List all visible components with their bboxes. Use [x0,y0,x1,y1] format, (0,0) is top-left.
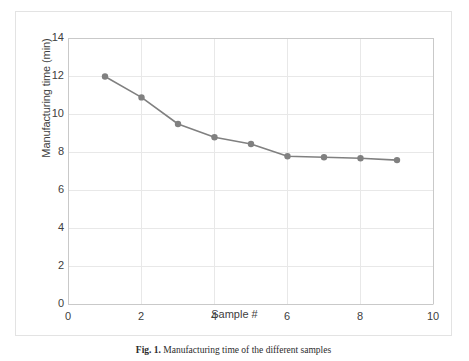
figure-caption-label: Fig. 1. [136,345,161,355]
data-point [248,141,254,147]
data-point [284,153,290,159]
data-point [138,94,144,100]
data-point [357,155,363,161]
horizontal-gridlines [68,39,433,267]
data-series-line [105,77,397,161]
data-point [321,154,327,160]
data-point [394,157,400,163]
vertical-gridlines [142,38,361,304]
line-chart-svg [16,12,453,337]
chart-plot-area: Manufacturing time (min) 14 12 10 8 6 4 … [16,12,451,335]
data-point [211,134,217,140]
plot-axes [68,38,434,305]
figure-caption: Fig. 1. Manufacturing time of the differ… [15,344,452,361]
data-point [175,121,181,127]
data-point [102,73,108,79]
data-series-markers [102,73,400,163]
figure-frame: Manufacturing time (min) 14 12 10 8 6 4 … [15,11,452,336]
figure-caption-text: Manufacturing time of the different samp… [163,345,331,355]
